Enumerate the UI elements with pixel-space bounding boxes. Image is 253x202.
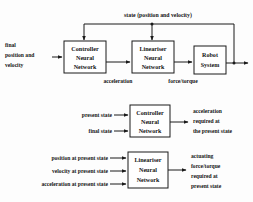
bottom-input-label-2: velocity at present state bbox=[52, 168, 108, 174]
block-lineariser-top-line1: Lineariser bbox=[139, 46, 166, 52]
input-label-line3: velocity bbox=[5, 62, 24, 68]
middle-output-label-line2: required at bbox=[193, 118, 220, 124]
diagram-middle: present state final state Controller Neu… bbox=[82, 105, 233, 137]
bottom-output-label-line1: actuating bbox=[191, 153, 214, 159]
signal-label-force-torque: force/torque bbox=[168, 78, 198, 84]
block-controller-middle-line2: Neural bbox=[141, 119, 159, 125]
middle-output-label-line3: the present state bbox=[193, 128, 233, 134]
block-lineariser-top-line2: Neural bbox=[144, 55, 162, 61]
bottom-output-label-line2: force/torque bbox=[191, 163, 221, 169]
middle-input-label-2: final state bbox=[89, 128, 113, 134]
input-label-line1: final bbox=[5, 42, 16, 48]
robot-output-junction-dot bbox=[233, 62, 236, 65]
block-lineariser-bottom-line2: Neural bbox=[139, 167, 157, 173]
block-controller-middle-line3: Network bbox=[139, 128, 162, 134]
input-label-line2: position and bbox=[5, 52, 35, 58]
block-robot-system bbox=[194, 46, 226, 74]
middle-input-label-1: present state bbox=[82, 112, 113, 118]
block-lineariser-bottom-line3: Network bbox=[137, 177, 160, 183]
bottom-input-label-3: acceleration at present state bbox=[41, 181, 108, 187]
block-controller-top-line3: Network bbox=[74, 64, 97, 70]
bottom-input-label-1: position at present state bbox=[51, 155, 108, 161]
middle-output-label-line1: acceleration bbox=[193, 108, 223, 114]
block-controller-top-line2: Neural bbox=[76, 55, 94, 61]
block-controller-top-line1: Controller bbox=[71, 46, 99, 52]
block-diagram-svg: state (position and velocity) final posi… bbox=[0, 0, 253, 202]
signal-label-acceleration: acceleration bbox=[104, 78, 134, 84]
feedback-junction-dot bbox=[151, 23, 154, 26]
diagram-top: state (position and velocity) final posi… bbox=[5, 12, 248, 84]
feedback-label: state (position and velocity) bbox=[124, 12, 192, 19]
block-lineariser-bottom-line1: Lineariser bbox=[134, 157, 161, 163]
bottom-output-label-line3: required at bbox=[191, 173, 218, 179]
diagram-bottom: position at present state velocity at pr… bbox=[41, 152, 221, 189]
block-controller-middle-line1: Controller bbox=[136, 110, 164, 116]
block-robot-system-line2: System bbox=[201, 62, 220, 68]
figure-canvas: state (position and velocity) final posi… bbox=[0, 0, 253, 202]
block-robot-system-line1: Robot bbox=[202, 52, 218, 58]
block-lineariser-top-line3: Network bbox=[142, 64, 165, 70]
bottom-output-label-line4: present state bbox=[191, 183, 222, 189]
